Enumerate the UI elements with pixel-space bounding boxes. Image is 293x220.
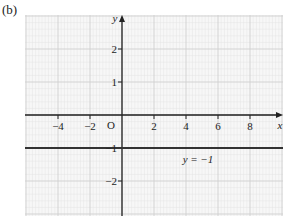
y-tick-label: −1 (105, 142, 117, 154)
y-axis-label: y (112, 12, 118, 24)
x-tick-label: 2 (151, 120, 157, 132)
x-tick-label: 8 (247, 120, 253, 132)
origin-label: O (107, 119, 115, 131)
y-tick-label: 2 (112, 43, 118, 55)
x-tick-label: 4 (183, 120, 189, 132)
y-tick-label: −2 (105, 175, 117, 187)
y-tick-label: 1 (112, 76, 118, 88)
x-tick-label: 6 (215, 120, 221, 132)
x-tick-label: −2 (84, 120, 96, 132)
graph: −4−2246821−1−2Oxyy = −1 (0, 0, 293, 220)
line-equation-label: y = −1 (182, 153, 214, 165)
x-tick-label: −4 (52, 120, 64, 132)
x-axis-label: x (277, 119, 283, 131)
